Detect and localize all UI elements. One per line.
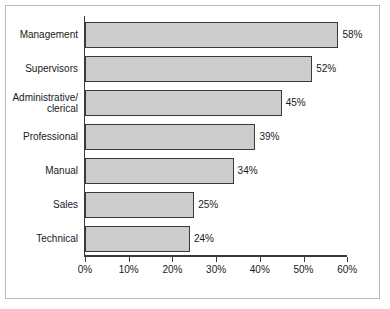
bar-value-label: 34% — [238, 165, 258, 176]
x-axis-tick — [304, 257, 305, 262]
bar — [85, 226, 190, 252]
bar-value-label: 58% — [342, 29, 362, 40]
bar-value-label: 39% — [259, 131, 279, 142]
x-axis-tick-label: 60% — [337, 264, 357, 275]
bar — [85, 90, 282, 116]
category-label: Administrative/ clerical — [0, 92, 78, 115]
x-axis-tick — [129, 257, 130, 262]
category-label: Supervisors — [0, 63, 78, 75]
category-label: Manual — [0, 165, 78, 177]
x-axis-tick — [347, 257, 348, 262]
x-axis-tick — [216, 257, 217, 262]
bar-value-label: 45% — [286, 97, 306, 108]
x-axis-tick-label: 0% — [78, 264, 92, 275]
category-label: Technical — [0, 233, 78, 245]
x-axis-tick — [85, 257, 86, 262]
bar — [85, 124, 255, 150]
x-axis-tick-label: 10% — [119, 264, 139, 275]
bar — [85, 192, 194, 218]
category-label: Management — [0, 29, 78, 41]
bar — [85, 158, 234, 184]
category-label: Sales — [0, 199, 78, 211]
x-axis-tick — [260, 257, 261, 262]
bar-value-label: 25% — [198, 199, 218, 210]
x-axis-tick — [172, 257, 173, 262]
bar-value-label: 52% — [316, 63, 336, 74]
plot-area: Management58%Supervisors52%Administrativ… — [0, 0, 390, 309]
bar — [85, 22, 338, 48]
category-label: Professional — [0, 131, 78, 143]
bar-value-label: 24% — [194, 233, 214, 244]
x-axis-tick-label: 30% — [206, 264, 226, 275]
x-axis-tick-label: 40% — [250, 264, 270, 275]
x-axis-tick-label: 20% — [162, 264, 182, 275]
chart-figure: Management58%Supervisors52%Administrativ… — [0, 0, 390, 309]
bar — [85, 56, 312, 82]
x-axis-tick-label: 50% — [293, 264, 313, 275]
